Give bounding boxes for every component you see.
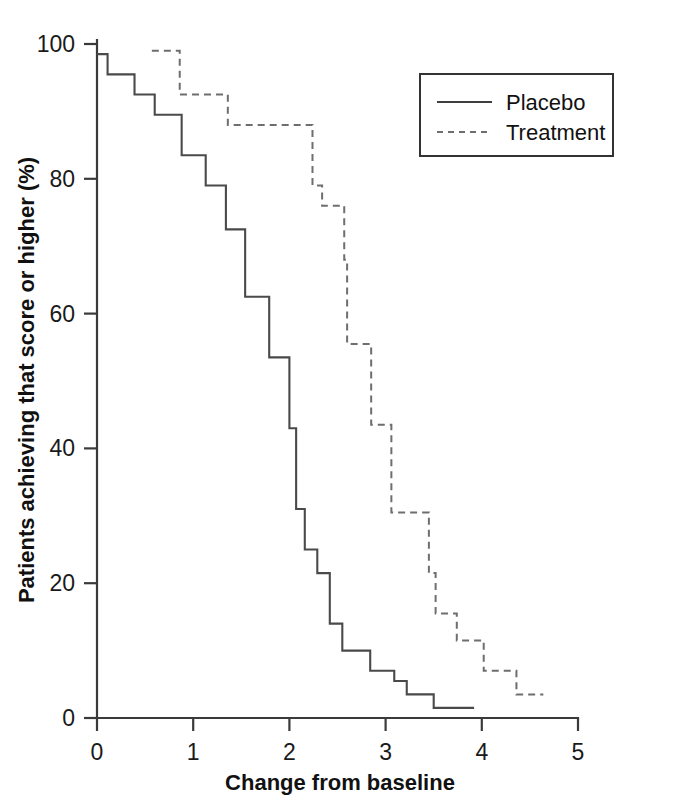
chart-legend: Placebo Treatment: [420, 74, 613, 156]
x-tick-label: 5: [572, 739, 585, 765]
y-tick-label: 20: [49, 570, 75, 596]
legend-label-treatment: Treatment: [506, 120, 605, 145]
series-line-placebo: [97, 54, 474, 708]
x-tick-label: 0: [91, 739, 104, 765]
y-tick-label: 40: [49, 435, 75, 461]
x-tick-label: 1: [187, 739, 200, 765]
y-tick-label: 80: [49, 166, 75, 192]
x-tick-label: 2: [283, 739, 296, 765]
y-axis-title: Patients achieving that score or higher …: [14, 157, 39, 603]
x-axis-ticks: 012345: [91, 718, 585, 765]
survival-step-chart: 020406080100 012345 Change from baseline…: [0, 0, 686, 802]
y-tick-label: 60: [49, 301, 75, 327]
x-tick-label: 4: [475, 739, 488, 765]
y-tick-label: 100: [37, 31, 75, 57]
x-axis-title: Change from baseline: [225, 770, 455, 795]
x-tick-label: 3: [379, 739, 392, 765]
y-tick-label: 0: [62, 705, 75, 731]
chart-figure: 020406080100 012345 Change from baseline…: [0, 0, 686, 802]
legend-label-placebo: Placebo: [506, 90, 586, 115]
y-axis-ticks: 020406080100: [37, 31, 97, 731]
